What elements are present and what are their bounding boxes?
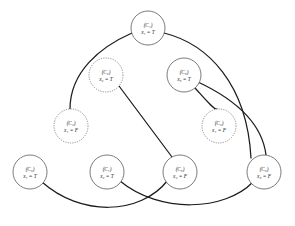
graph-node[interactable]: (C₁)x₁ = T	[131, 11, 165, 45]
graph-node[interactable]: (C₃)x₃ = T	[167, 58, 201, 92]
nodes-group: (C₁)x₁ = T(C₂)x₂ = T(C₃)x₃ = T(C₄)x₁ = F…	[13, 11, 281, 189]
graph-node[interactable]: (C₅)x₁ = F	[202, 109, 236, 143]
node-assignment-label: x₂ = T	[98, 76, 114, 82]
graph-edge	[195, 88, 217, 109]
node-circle	[89, 58, 123, 92]
graph-node[interactable]: (C₂)x₂ = T	[89, 58, 123, 92]
graph-edge	[164, 33, 251, 158]
node-clause-label: (C₈)	[176, 166, 185, 173]
node-assignment-label: x₂ = T	[99, 173, 115, 179]
node-clause-label: (C₂)	[102, 69, 111, 76]
node-clause-label: (C₉)	[260, 166, 269, 173]
node-clause-label: (C₄)	[67, 120, 76, 127]
node-clause-label: (C₁)	[144, 22, 153, 29]
node-circle	[131, 11, 165, 45]
node-assignment-label: x₃ = F	[256, 173, 272, 179]
node-assignment-label: x₁ = F	[63, 127, 79, 133]
node-assignment-label: x₁ = T	[22, 173, 38, 179]
node-clause-label: (C₇)	[103, 166, 112, 173]
node-circle	[167, 58, 201, 92]
node-clause-label: (C₆)	[26, 166, 35, 173]
node-circle	[13, 155, 47, 189]
node-circle	[202, 109, 236, 143]
node-assignment-label: x₃ = T	[176, 76, 192, 82]
node-circle	[247, 155, 281, 189]
graph-node[interactable]: (C₆)x₁ = T	[13, 155, 47, 189]
graph-node[interactable]: (C₈)x₂ = F	[163, 155, 197, 189]
graph-node[interactable]: (C₉)x₃ = F	[247, 155, 281, 189]
node-circle	[163, 155, 197, 189]
node-assignment-label: x₁ = F	[211, 127, 227, 133]
graph-diagram: (C₁)x₁ = T(C₂)x₂ = T(C₃)x₃ = T(C₄)x₁ = F…	[0, 0, 295, 226]
graph-edge	[119, 86, 172, 157]
node-assignment-label: x₁ = T	[140, 29, 156, 35]
graph-node[interactable]: (C₇)x₂ = T	[90, 155, 124, 189]
node-clause-label: (C₃)	[180, 69, 189, 76]
graph-node[interactable]: (C₄)x₁ = F	[54, 109, 88, 143]
node-assignment-label: x₂ = F	[172, 173, 188, 179]
node-circle	[90, 155, 124, 189]
node-circle	[54, 109, 88, 143]
node-clause-label: (C₅)	[215, 120, 224, 127]
